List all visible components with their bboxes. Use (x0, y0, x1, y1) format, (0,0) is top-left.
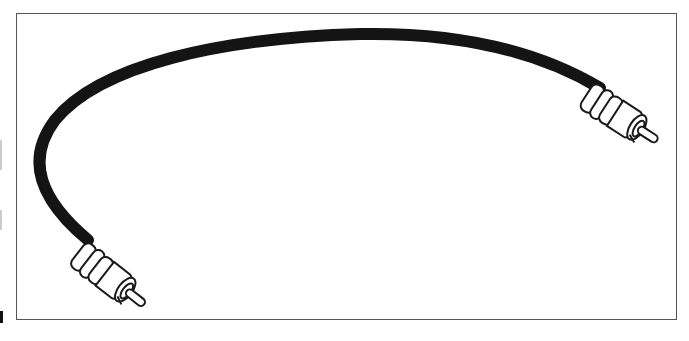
left-rca-plug-icon (68, 240, 154, 317)
rca-cable-illustration (0, 0, 689, 341)
right-rca-plug-icon (578, 81, 666, 154)
cable-icon (40, 34, 600, 240)
